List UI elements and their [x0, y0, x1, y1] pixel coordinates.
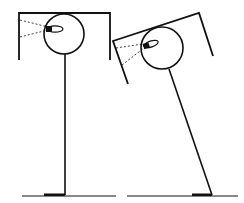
sight-line-upper — [116, 44, 143, 48]
tilted-figure — [113, 13, 238, 196]
eye-icon — [142, 39, 159, 49]
diagram-canvas — [0, 0, 244, 203]
eye-icon — [46, 26, 63, 32]
foot — [44, 194, 65, 197]
visual-frame — [19, 13, 110, 60]
visual-frame — [113, 13, 213, 84]
foot — [192, 194, 212, 197]
head-circle — [44, 14, 84, 54]
body-stem — [169, 69, 212, 195]
sight-line-upper — [20, 20, 48, 27]
upright-figure — [19, 13, 116, 196]
